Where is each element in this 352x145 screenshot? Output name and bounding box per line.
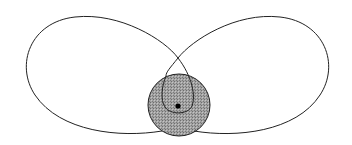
diagram-canvas <box>0 0 352 145</box>
orbit-diagram <box>0 0 352 145</box>
center-dot <box>175 103 180 108</box>
